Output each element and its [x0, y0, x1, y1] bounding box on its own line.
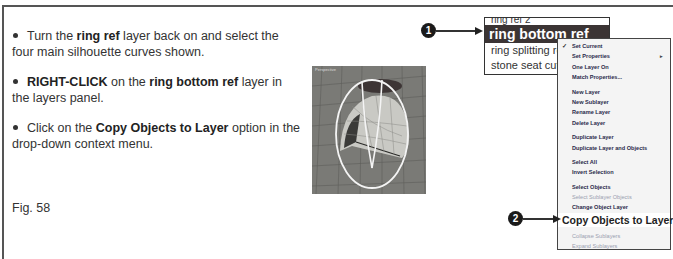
layer-context-menu: ✓Set Current Set Properties▸ One Layer O…: [557, 38, 671, 250]
perspective-viewport[interactable]: Perspective: [312, 66, 426, 194]
step-2: RIGHT-CLICK on the ring bottom ref layer…: [12, 74, 302, 106]
menu-item-new-layer[interactable]: New Layer: [558, 87, 670, 97]
step-1: Turn the ring ref layer back on and sele…: [12, 28, 302, 60]
layer-row-ring-ref-2[interactable]: ring ref 2: [485, 18, 609, 25]
menu-item-one-layer-on[interactable]: One Layer On: [558, 62, 670, 72]
bullet-icon: [13, 33, 18, 38]
menu-item-select-sublayer-objects[interactable]: Select Sublayer Objects: [558, 192, 670, 202]
menu-item-expand-sublayers[interactable]: Expand Sublayers: [558, 241, 670, 251]
arrow-head-icon: [553, 215, 561, 223]
callout-1-icon: 1: [421, 23, 436, 38]
step-3: Click on the Copy Objects to Layer optio…: [12, 120, 302, 152]
menu-item-duplicate-layer[interactable]: Duplicate Layer: [558, 132, 670, 142]
figure-label: Fig. 58: [12, 201, 50, 215]
menu-item-select-objects[interactable]: Select Objects: [558, 182, 670, 192]
submenu-arrow-icon: ▸: [660, 51, 663, 61]
viewport-label: Perspective: [315, 67, 336, 72]
bullet-icon: [13, 125, 18, 130]
menu-item-match-properties[interactable]: Match Properties...: [558, 72, 670, 82]
menu-item-rename-layer[interactable]: Rename Layer: [558, 107, 670, 117]
checkmark-icon: ✓: [562, 41, 567, 51]
menu-item-set-properties[interactable]: Set Properties▸: [558, 51, 670, 61]
menu-item-delete-layer[interactable]: Delete Layer: [558, 118, 670, 128]
callout-1-arrow: [436, 30, 476, 32]
callout-2-arrow: [523, 218, 553, 220]
callout-2-icon: 2: [508, 211, 523, 226]
menu-item-select-all[interactable]: Select All: [558, 157, 670, 167]
menu-item-new-sublayer[interactable]: New Sublayer: [558, 97, 670, 107]
arrow-head-icon: [475, 27, 483, 35]
menu-item-change-object-layer[interactable]: Change Object Layer: [558, 202, 670, 212]
menu-item-collapse-sublayers[interactable]: Collapse Sublayers: [558, 231, 670, 241]
instructions: Turn the ring ref layer back on and sele…: [12, 28, 302, 166]
menu-item-set-current[interactable]: ✓Set Current: [558, 41, 670, 51]
ring-model-render: [312, 66, 426, 194]
menu-item-duplicate-layer-and-objects[interactable]: Duplicate Layer and Objects: [558, 143, 670, 153]
menu-item-invert-selection[interactable]: Invert Selection: [558, 167, 670, 177]
bullet-icon: [13, 79, 18, 84]
menu-item-copy-objects-to-layer[interactable]: Copy Objects to Layer: [558, 213, 670, 227]
